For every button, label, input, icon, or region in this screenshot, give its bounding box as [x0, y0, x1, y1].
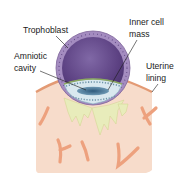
label-trophoblast: Trophoblast	[23, 25, 68, 35]
label-amniotic-2: cavity	[14, 63, 36, 73]
label-inner-cell-mass-2: mass	[129, 29, 150, 39]
label-uterine-1: Uterine	[146, 61, 174, 71]
blastocyst	[56, 31, 130, 105]
label-amniotic-1: Amniotic	[14, 51, 47, 61]
label-uterine-2: lining	[146, 73, 166, 83]
label-inner-cell-mass-1: Inner cell	[129, 17, 164, 27]
